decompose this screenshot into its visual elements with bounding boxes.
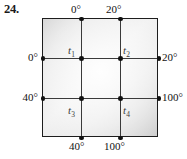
node-interior-t3: [79, 96, 84, 101]
figure-container: 24. t1 t2 t3 t4: [0, 0, 187, 159]
boundary-label-bottom-left: 40°: [69, 141, 84, 152]
node-interior-t2: [118, 56, 123, 61]
node-interior-t1: [79, 56, 84, 61]
boundary-label-bottom-right: 100°: [104, 141, 125, 152]
node-label-t2: t2: [123, 45, 130, 56]
node-left-upper: [41, 56, 46, 61]
gridline-horizontal-1: [43, 58, 157, 59]
node-interior-t4: [118, 96, 123, 101]
plate-region: t1 t2 t3 t4: [42, 18, 158, 137]
boundary-label-left-upper: 0°: [10, 52, 38, 63]
node-left-lower: [41, 96, 46, 101]
node-right-lower: [157, 96, 162, 101]
boundary-label-left-lower: 40°: [6, 92, 38, 103]
boundary-label-right-upper: 20°: [162, 52, 177, 63]
node-label-t1: t1: [68, 45, 75, 56]
boundary-label-top-right: 20°: [106, 4, 121, 15]
node-label-t4-sub: 4: [126, 110, 130, 119]
node-label-t1-sub: 1: [71, 50, 75, 59]
problem-number: 24.: [4, 3, 19, 16]
node-label-t3-sub: 3: [71, 110, 75, 119]
node-label-t2-sub: 2: [126, 50, 130, 59]
node-top-right: [118, 17, 123, 22]
node-right-upper: [157, 56, 162, 61]
gridline-horizontal-2: [43, 98, 157, 99]
boundary-label-right-lower: 100°: [162, 92, 183, 103]
node-top-left: [79, 17, 84, 22]
boundary-label-top-left: 0°: [71, 4, 81, 15]
node-label-t4: t4: [123, 105, 130, 116]
node-label-t3: t3: [68, 105, 75, 116]
gridline-vertical-1: [81, 19, 82, 136]
gridline-vertical-2: [120, 19, 121, 136]
